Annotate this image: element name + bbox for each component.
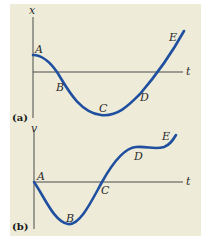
graph-a-curve	[33, 31, 184, 115]
graph-a-point-a: A	[34, 43, 43, 56]
graph-b-y-label: v	[31, 122, 38, 135]
graph-a-point-b: B	[55, 81, 64, 94]
graph-b-point-e: E	[161, 130, 170, 143]
graph-a-position: x t A B C D E (a)	[12, 4, 191, 123]
graph-a-point-d: D	[139, 91, 149, 104]
graph-b-point-c: C	[101, 184, 110, 197]
graph-a-y-label: x	[29, 4, 36, 17]
graph-b-curve	[34, 135, 176, 224]
graph-b-point-b: B	[65, 212, 74, 225]
graph-a-t-label: t	[186, 65, 191, 78]
graph-b-point-a: A	[36, 170, 45, 183]
graph-b-point-d: D	[133, 150, 143, 163]
graph-a-point-c: C	[99, 102, 108, 115]
graph-a-panel-label: (a)	[12, 112, 28, 123]
graph-a-point-e: E	[168, 31, 177, 44]
motion-graphs-diagram: x t A B C D E (a) v t A B C D E (b)	[0, 0, 209, 244]
graph-b-t-label: t	[186, 175, 191, 188]
graph-b-velocity: v t A B C D E (b)	[12, 122, 191, 232]
graph-b-panel-label: (b)	[12, 221, 28, 232]
